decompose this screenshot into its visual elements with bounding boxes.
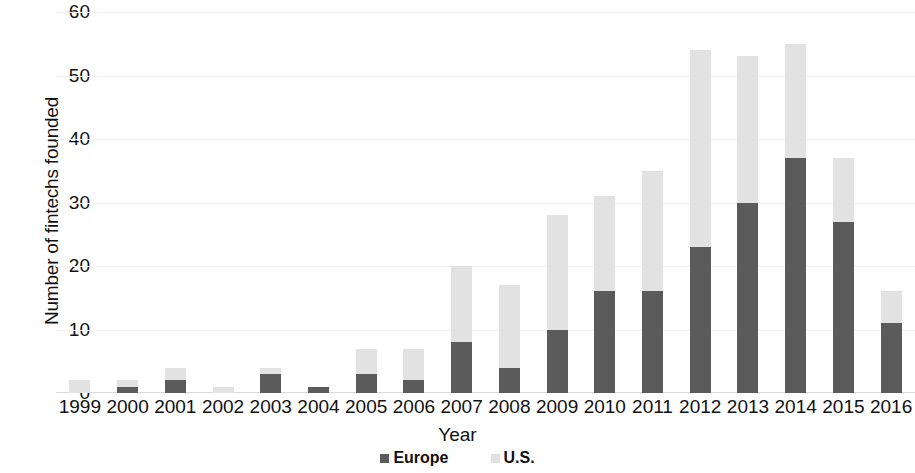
x-axis-tick: 2006 [390, 396, 438, 418]
x-axis-tick: 2013 [724, 396, 772, 418]
bar-group[interactable] [213, 387, 234, 393]
bar-group[interactable] [594, 196, 615, 393]
x-axis-tick: 2014 [772, 396, 820, 418]
x-axis-tick: 2001 [151, 396, 199, 418]
bar-segment-us[interactable] [499, 285, 520, 368]
bar-segment-europe[interactable] [117, 387, 138, 393]
x-axis-tick: 2007 [438, 396, 486, 418]
bar-segment-us[interactable] [594, 196, 615, 291]
bar-segment-europe[interactable] [165, 380, 186, 393]
bar-segment-europe[interactable] [594, 291, 615, 393]
bar-group[interactable] [165, 368, 186, 393]
bar-segment-us[interactable] [451, 266, 472, 342]
bar-group[interactable] [737, 56, 758, 393]
bar-group[interactable] [356, 349, 377, 393]
bar-segment-europe[interactable] [403, 380, 424, 393]
bar-segment-us[interactable] [690, 50, 711, 247]
legend-swatch-icon [491, 454, 500, 463]
bar-group[interactable] [403, 349, 424, 393]
bar-segment-europe[interactable] [690, 247, 711, 393]
x-axis-tick: 2005 [342, 396, 390, 418]
bar-series-container [56, 12, 915, 393]
x-axis-tick: 2000 [104, 396, 152, 418]
legend-swatch-icon [380, 454, 389, 463]
x-axis-tick: 2011 [629, 396, 677, 418]
bar-segment-us[interactable] [642, 171, 663, 292]
bar-group[interactable] [117, 380, 138, 393]
bar-group[interactable] [547, 215, 568, 393]
x-axis-tick: 2016 [867, 396, 915, 418]
stacked-bar-chart: Number of fintechs founded 0102030405060… [0, 0, 915, 473]
x-axis-tick: 2009 [533, 396, 581, 418]
bar-segment-us[interactable] [785, 44, 806, 158]
x-axis-tick: 1999 [56, 396, 104, 418]
bar-segment-europe[interactable] [547, 330, 568, 394]
x-axis-tick: 2015 [820, 396, 868, 418]
bar-segment-europe[interactable] [642, 291, 663, 393]
x-axis-tick: 2004 [295, 396, 343, 418]
plot-area [56, 12, 915, 393]
bar-segment-europe[interactable] [881, 323, 902, 393]
chart-legend: EuropeU.S. [0, 450, 915, 466]
legend-item[interactable]: U.S. [491, 450, 535, 466]
bar-group[interactable] [881, 291, 902, 393]
bar-segment-us[interactable] [737, 56, 758, 202]
bar-segment-europe[interactable] [833, 222, 854, 393]
x-axis-tick-labels: 1999200020012002200320042005200620072008… [56, 396, 915, 422]
bar-group[interactable] [451, 266, 472, 393]
legend-item[interactable]: Europe [380, 450, 448, 466]
bar-segment-us[interactable] [356, 349, 377, 374]
x-axis-tick: 2010 [581, 396, 629, 418]
bar-segment-europe[interactable] [356, 374, 377, 393]
bar-segment-us[interactable] [213, 387, 234, 393]
bar-group[interactable] [833, 158, 854, 393]
bar-segment-europe[interactable] [737, 203, 758, 394]
x-axis-tick: 2008 [486, 396, 534, 418]
bar-segment-us[interactable] [881, 291, 902, 323]
bar-group[interactable] [69, 380, 90, 393]
bar-segment-europe[interactable] [260, 374, 281, 393]
x-axis-tick: 2012 [676, 396, 724, 418]
bar-group[interactable] [785, 44, 806, 393]
bar-segment-europe[interactable] [451, 342, 472, 393]
legend-label: Europe [393, 450, 448, 466]
bar-segment-us[interactable] [403, 349, 424, 381]
bar-group[interactable] [499, 285, 520, 393]
legend-label: U.S. [504, 450, 535, 466]
bar-segment-europe[interactable] [499, 368, 520, 393]
bar-group[interactable] [260, 368, 281, 393]
x-axis-title: Year [0, 424, 915, 446]
x-axis-tick: 2003 [247, 396, 295, 418]
bar-segment-us[interactable] [547, 215, 568, 329]
bar-segment-us[interactable] [833, 158, 854, 222]
bar-group[interactable] [642, 171, 663, 393]
bar-segment-us[interactable] [165, 368, 186, 381]
bar-segment-europe[interactable] [785, 158, 806, 393]
x-axis-tick: 2002 [199, 396, 247, 418]
bar-segment-europe[interactable] [308, 387, 329, 393]
bar-group[interactable] [690, 50, 711, 393]
bar-group[interactable] [308, 387, 329, 393]
bar-segment-us[interactable] [69, 380, 90, 393]
